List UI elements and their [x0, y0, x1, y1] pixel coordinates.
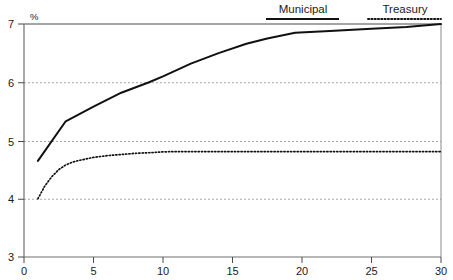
- legend: Municipal Treasury: [266, 3, 441, 19]
- plot-area-background: [24, 24, 441, 257]
- ytick-label-4: 4: [8, 193, 14, 205]
- xtick-label-30: 30: [435, 265, 447, 277]
- legend-label-treasury[interactable]: Treasury: [383, 3, 428, 15]
- x-axis-ticks: [24, 257, 441, 263]
- y-axis-ticks: [18, 24, 24, 257]
- line-chart: 7 6 5 4 3 % 0 5 10 15 20 25 30 Municipal…: [0, 0, 453, 280]
- legend-label-municipal[interactable]: Municipal: [279, 3, 328, 15]
- ytick-label-3: 3: [8, 251, 14, 263]
- y-axis-unit-label: %: [30, 11, 39, 22]
- xtick-label-0: 0: [21, 265, 27, 277]
- ytick-label-7: 7: [8, 18, 14, 30]
- xtick-label-20: 20: [296, 265, 308, 277]
- ytick-label-5: 5: [8, 136, 14, 148]
- x-axis-tick-labels: 0 5 10 15 20 25 30: [21, 265, 447, 277]
- xtick-label-15: 15: [226, 265, 238, 277]
- xtick-label-25: 25: [365, 265, 377, 277]
- chart-container: 7 6 5 4 3 % 0 5 10 15 20 25 30 Municipal…: [0, 0, 453, 280]
- xtick-label-10: 10: [157, 265, 169, 277]
- y-axis-tick-labels: 7 6 5 4 3: [8, 18, 14, 263]
- xtick-label-5: 5: [90, 265, 96, 277]
- ytick-label-6: 6: [8, 77, 14, 89]
